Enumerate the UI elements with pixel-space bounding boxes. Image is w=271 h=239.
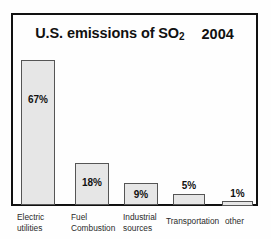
chart-title-text: U.S. emissions of SO xyxy=(35,25,179,41)
bar-value-other: 1% xyxy=(222,188,253,199)
chart-title-subscript: 2 xyxy=(179,32,184,43)
bar-value-electric-utilities: 67% xyxy=(21,94,55,105)
category-label-line2: sources xyxy=(123,223,157,234)
category-label-line1: Electric xyxy=(17,212,44,222)
category-label-line1: Transportation xyxy=(166,216,219,226)
category-label-industrial-sources: Industrial sources xyxy=(123,212,157,233)
category-label-line1: Fuel xyxy=(71,212,87,222)
chart-figure: U.S. emissions of SO2 2004 67% 18% 9% 5%… xyxy=(0,0,271,239)
chart-title-row: U.S. emissions of SO2 2004 xyxy=(11,22,258,46)
bar-value-fuel-combustion: 18% xyxy=(75,177,109,188)
bar-value-transportation: 5% xyxy=(173,180,205,191)
category-label-line1: other xyxy=(225,216,244,226)
category-label-transportation: Transportation xyxy=(166,216,219,227)
category-label-other: other xyxy=(225,216,244,227)
bar-value-industrial-sources: 9% xyxy=(124,189,158,200)
category-label-electric-utilities: Electric utilities xyxy=(17,212,44,233)
category-label-line2: utilities xyxy=(17,223,44,234)
category-label-line1: Industrial xyxy=(123,212,157,222)
category-label-fuel-combustion: Fuel Combustion xyxy=(71,212,115,233)
chart-year: 2004 xyxy=(202,26,234,42)
page-title: U.S. emissions of SO2 xyxy=(35,25,184,42)
bar-other xyxy=(222,201,253,206)
category-label-line2: Combustion xyxy=(71,223,115,234)
bar-electric-utilities xyxy=(21,60,55,205)
bar-transportation xyxy=(173,194,205,205)
